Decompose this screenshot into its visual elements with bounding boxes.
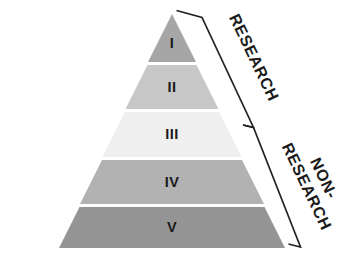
pyramid-tier-4[interactable]: IV	[80, 160, 264, 204]
pyramid-svg: I II III IV V	[0, 0, 364, 264]
tier-5-numeral: V	[167, 219, 177, 235]
tier-1-numeral: I	[170, 35, 175, 51]
bracket-research-label: RESEARCH	[226, 11, 282, 104]
pyramid-tier-1[interactable]: I	[148, 14, 196, 62]
pyramid-diagram: I II III IV V	[0, 0, 364, 264]
tier-3-numeral: III	[165, 126, 179, 142]
tier-4-numeral: IV	[165, 174, 180, 190]
pyramid-tier-5[interactable]: V	[59, 207, 285, 248]
tier-2-numeral: II	[167, 79, 176, 95]
pyramid-tier-3[interactable]: III	[103, 112, 242, 157]
pyramid-tier-2[interactable]: II	[126, 65, 219, 109]
